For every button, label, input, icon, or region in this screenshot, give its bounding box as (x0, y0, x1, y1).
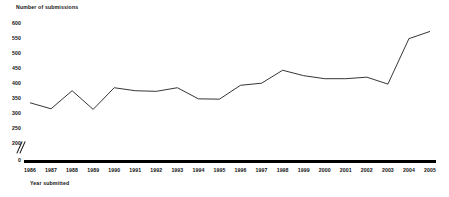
chart-figure: Number of submissions 600550500450400350… (0, 0, 449, 197)
plot-area (0, 0, 449, 197)
submissions-line-series (30, 31, 430, 109)
